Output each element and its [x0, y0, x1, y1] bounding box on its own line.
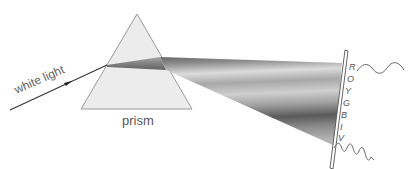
spectrum-letter-o: O	[347, 74, 354, 84]
diagram-canvas	[0, 0, 418, 169]
prism-label: prism	[122, 113, 154, 128]
spectrum-letter-b: B	[341, 110, 347, 120]
spectrum-letter-i: I	[340, 122, 343, 132]
spectrum-letter-g: G	[343, 98, 350, 108]
arrow-head-icon	[64, 81, 72, 86]
spectrum-letter-r: R	[349, 62, 356, 72]
spectrum-letter-v: V	[338, 133, 344, 143]
prism-diagram: white light prism R O Y G B I V	[0, 0, 418, 169]
red-wave-icon	[357, 63, 404, 74]
violet-wave-icon	[334, 143, 374, 160]
spectrum-letter-y: Y	[345, 86, 351, 96]
